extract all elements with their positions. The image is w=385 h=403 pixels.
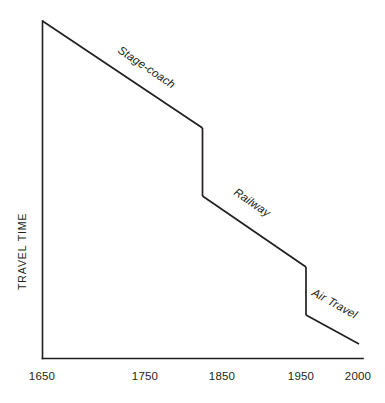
series-label-railway: Railway [232,186,274,220]
series-line-stage-coach [43,21,203,128]
y-axis-title: TRAVEL TIME [16,213,28,290]
x-tick-label-1750: 1750 [132,370,158,382]
series-line-air-travel [306,315,359,344]
series-label-air-travel: Air Travel [309,286,360,321]
chart-canvas: TRAVEL TIME 1650 1750 1850 1950 2000 Sta… [0,0,385,403]
x-tick-label-2000: 2000 [345,370,371,382]
x-tick-label-1650: 1650 [29,370,55,382]
travel-time-chart: TRAVEL TIME 1650 1750 1850 1950 2000 Sta… [0,0,385,403]
series-label-stage-coach: Stage-coach [116,44,178,91]
x-tick-label-1850: 1850 [209,370,235,382]
x-tick-label-1950: 1950 [288,370,314,382]
